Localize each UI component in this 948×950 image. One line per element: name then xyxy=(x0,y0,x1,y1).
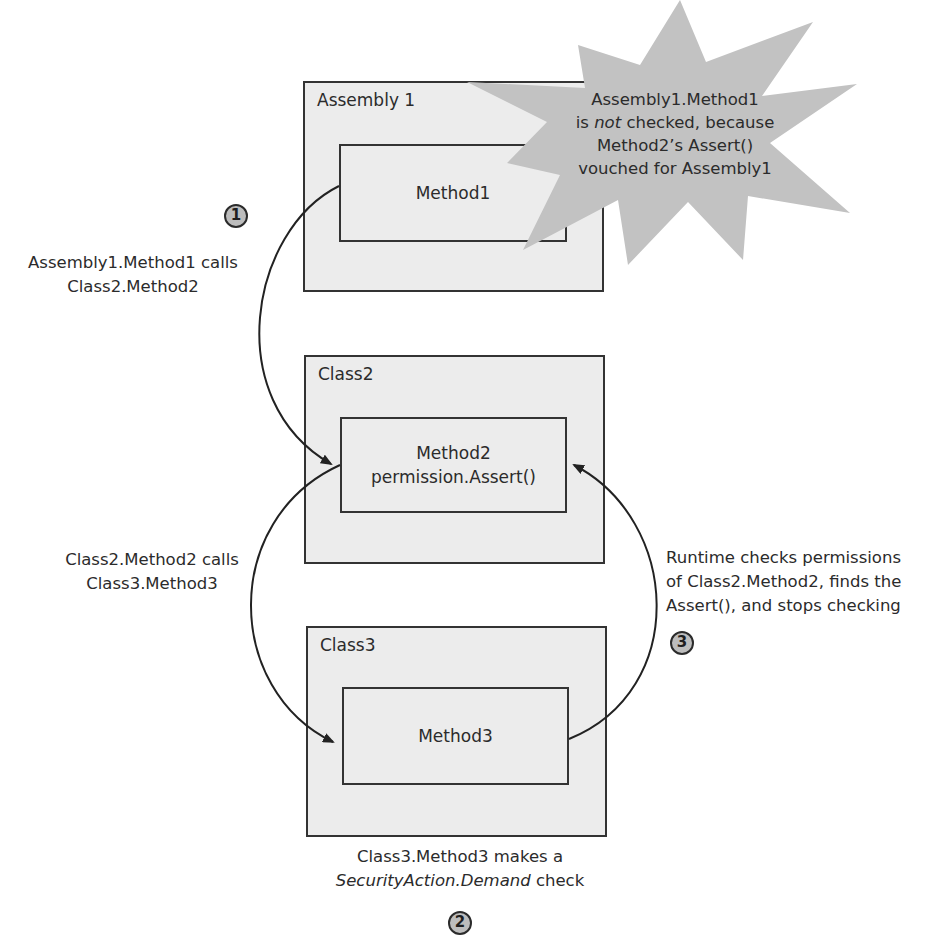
step-marker-1-icon: 1 xyxy=(224,204,248,228)
step1-label: Assembly1.Method1 calls Class2.Method2 xyxy=(10,251,256,299)
step-marker-2-icon: 2 xyxy=(448,911,472,935)
step3-label: Runtime checks permissions of Class2.Met… xyxy=(666,546,946,618)
diagram-canvas: Assembly 1 Method1 Class2 Method2 permis… xyxy=(0,0,948,950)
connectors-layer xyxy=(0,0,948,950)
callout-line1: Assembly1.Method1 xyxy=(555,88,795,111)
call-arrow-1 xyxy=(259,186,339,464)
callout-line2: is not checked, because xyxy=(555,111,795,134)
call2-label: Class2.Method2 calls Class3.Method3 xyxy=(46,548,258,596)
callout-line4: vouched for Assembly1 xyxy=(555,157,795,180)
step2-label: Class3.Method3 makes a SecurityAction.De… xyxy=(310,845,610,893)
call-arrow-2 xyxy=(251,465,340,742)
step-marker-3-icon: 3 xyxy=(670,631,694,655)
callout-text: Assembly1.Method1 is not checked, becaus… xyxy=(555,88,795,180)
callout-line3: Method2’s Assert() xyxy=(555,134,795,157)
check-arrow-3 xyxy=(569,465,657,739)
